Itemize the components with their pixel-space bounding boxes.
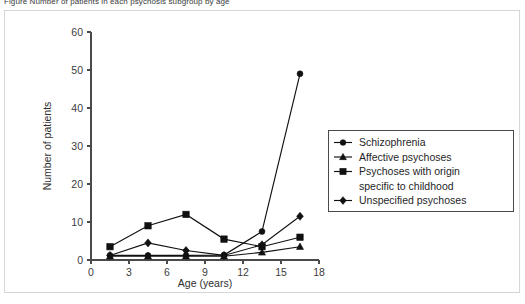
- x-tick-label: 15: [275, 266, 287, 278]
- y-tick-label: 40: [71, 102, 83, 114]
- data-point-diamond: [145, 239, 152, 247]
- legend-label: Unspecified psychoses: [359, 194, 466, 206]
- chart-panel: 0102030405060 0369121518 Number of patie…: [4, 10, 520, 293]
- x-axis-ticks: 0369121518: [88, 260, 325, 278]
- data-point-circle: [340, 140, 346, 146]
- data-point-triangle: [296, 243, 303, 249]
- x-axis-title: Age (years): [178, 277, 232, 289]
- y-tick-label: 50: [71, 64, 83, 76]
- legend-label: Affective psychoses: [359, 151, 452, 163]
- figure-caption-text: Figure Number of patients in each psycho…: [4, 0, 230, 6]
- figure-caption: Figure Number of patients in each psycho…: [0, 0, 525, 9]
- data-point-square: [221, 236, 227, 242]
- series-line: [110, 214, 300, 246]
- y-tick-label: 30: [71, 140, 83, 152]
- series-0: [107, 71, 303, 259]
- y-axis-ticks: 0102030405060: [71, 26, 91, 266]
- data-series-layer: [106, 71, 303, 260]
- data-point-square: [145, 223, 151, 229]
- data-point-square: [183, 211, 189, 217]
- x-tick-label: 3: [126, 266, 132, 278]
- data-point-circle: [259, 229, 265, 235]
- series-1: [106, 243, 303, 259]
- x-tick-label: 12: [237, 266, 249, 278]
- y-tick-label: 0: [77, 254, 83, 266]
- y-tick-label: 10: [71, 216, 83, 228]
- y-tick-label: 60: [71, 26, 83, 38]
- legend-label: Schizophrenia: [359, 136, 426, 148]
- chart-legend: SchizophreniaAffective psychosesPsychose…: [328, 130, 513, 212]
- y-axis-title: Number of patients: [41, 102, 53, 191]
- data-point-square: [107, 244, 113, 250]
- data-point-square: [340, 168, 346, 174]
- data-point-diamond: [297, 212, 304, 220]
- series-line: [110, 74, 300, 256]
- series-line: [110, 216, 300, 255]
- series-3: [107, 212, 304, 259]
- data-point-circle: [297, 71, 303, 77]
- x-tick-label: 0: [88, 266, 94, 278]
- x-tick-label: 6: [164, 266, 170, 278]
- data-point-square: [297, 234, 303, 240]
- line-chart: 0102030405060 0369121518 Number of patie…: [5, 11, 519, 292]
- y-tick-label: 20: [71, 178, 83, 190]
- figure-root: Figure Number of patients in each psycho…: [0, 0, 525, 304]
- legend-label: specific to childhood: [359, 180, 454, 192]
- series-2: [107, 211, 303, 250]
- x-tick-label: 18: [313, 266, 325, 278]
- legend-label: Psychoses with origin: [359, 165, 460, 177]
